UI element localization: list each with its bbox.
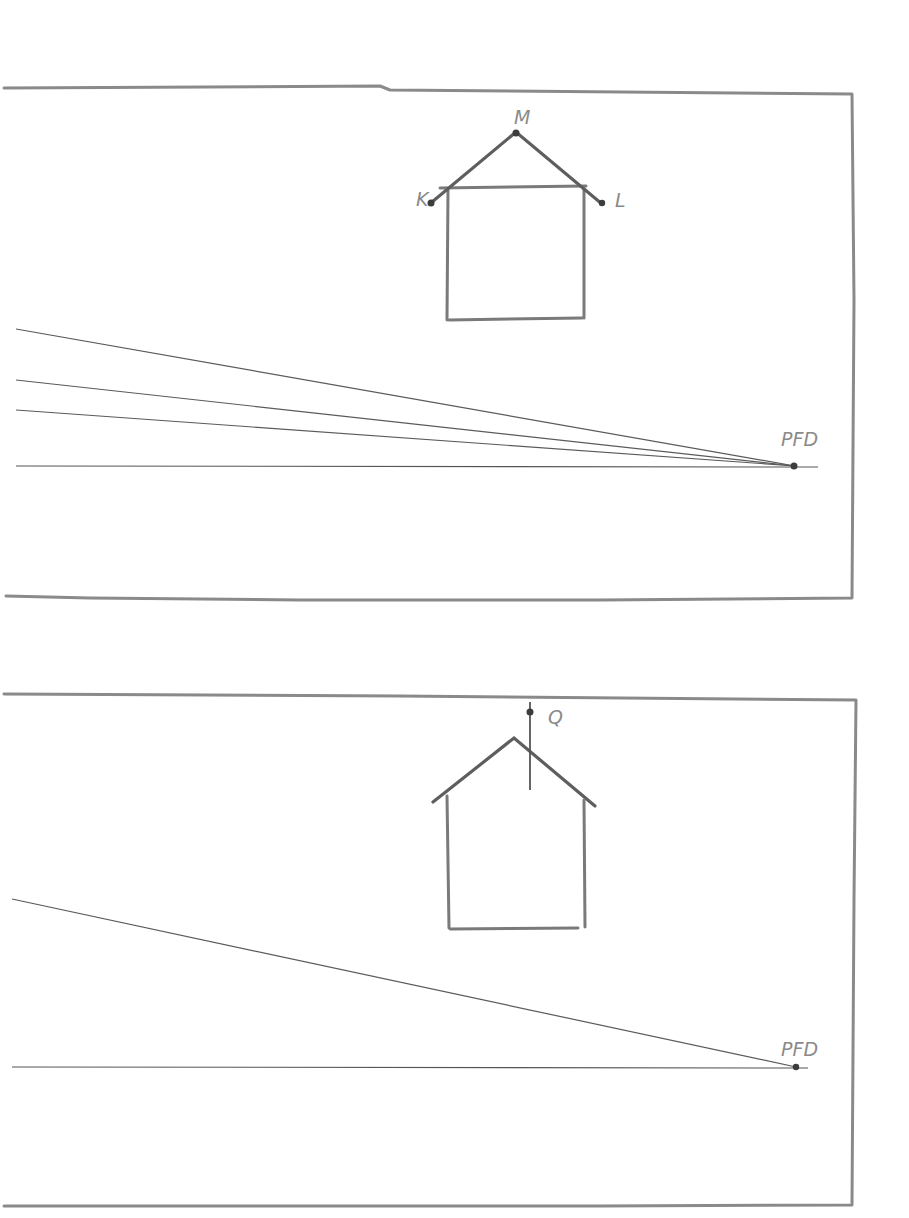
bottom-vanishing-label: PFD <box>781 1038 818 1060</box>
top-house: M K L <box>416 106 626 320</box>
top-panel-frame <box>4 86 854 600</box>
point-l <box>599 200 605 206</box>
ray-2 <box>16 380 795 466</box>
point-q <box>527 709 534 716</box>
bottom-house-walls <box>447 796 585 929</box>
label-k: K <box>416 188 430 210</box>
point-m <box>513 130 520 137</box>
top-panel: M K L PFD <box>4 86 854 600</box>
top-vanishing-label: PFD <box>781 428 818 450</box>
top-house-walls <box>440 186 586 320</box>
bottom-vanishing-point <box>793 1064 799 1070</box>
bottom-perspective-lines: PFD <box>12 899 818 1070</box>
bottom-panel-frame <box>4 694 856 1206</box>
label-m: M <box>514 106 530 128</box>
ray-3 <box>16 410 795 466</box>
bottom-ray <box>12 899 796 1067</box>
bottom-house: Q <box>433 702 595 929</box>
ray-1 <box>16 329 795 466</box>
label-q: Q <box>548 706 563 728</box>
top-vanishing-point <box>791 463 798 470</box>
top-horizon-line <box>16 466 818 467</box>
top-perspective-lines: PFD <box>16 329 818 470</box>
top-house-roof <box>432 132 602 204</box>
bottom-panel: Q PFD <box>4 694 856 1206</box>
bottom-horizon-line <box>12 1067 808 1068</box>
perspective-sketch: M K L PFD Q PFD <box>0 0 909 1218</box>
label-l: L <box>615 189 626 211</box>
point-k <box>428 200 435 207</box>
bottom-house-roof <box>433 738 595 806</box>
